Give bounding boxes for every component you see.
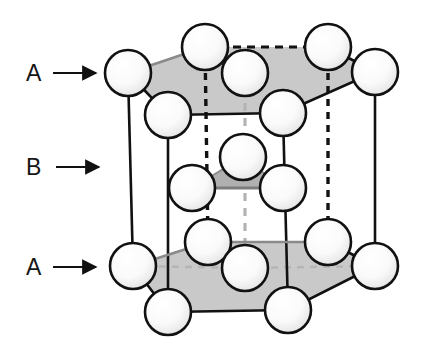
hcp-structure-figure: A B A bbox=[0, 0, 424, 354]
atom-a-top-back-right bbox=[305, 24, 351, 70]
layer-a-top-atoms-back bbox=[105, 24, 398, 138]
atom-a-bottom-front-right bbox=[265, 287, 311, 333]
atom-a-bottom-front-left bbox=[145, 289, 191, 335]
atom-a-top-left bbox=[105, 50, 151, 96]
atom-b-front-left bbox=[169, 165, 215, 211]
atom-b-front-right bbox=[260, 165, 306, 211]
layer-label-a-bottom: A bbox=[26, 256, 41, 279]
atom-a-bottom-center bbox=[222, 245, 268, 291]
layer-label-a-top: A bbox=[26, 62, 41, 85]
atom-a-top-back-left bbox=[182, 24, 228, 70]
layer-b-atoms bbox=[169, 134, 306, 211]
layer-a-bottom-atoms bbox=[110, 219, 398, 335]
label-arrows bbox=[53, 73, 99, 267]
atom-b-back-center bbox=[220, 134, 266, 180]
vertical-edge-left bbox=[128, 73, 133, 266]
layer-label-b-middle: B bbox=[26, 156, 41, 179]
atom-a-bottom-left bbox=[110, 243, 156, 289]
crystal-structure-diagram bbox=[0, 0, 424, 354]
atom-a-top-front-left bbox=[145, 92, 191, 138]
atom-a-bottom-back-right bbox=[305, 219, 351, 265]
atom-a-top-right bbox=[352, 49, 398, 95]
atom-a-top-front-right bbox=[260, 90, 306, 136]
atom-a-bottom-right bbox=[352, 243, 398, 289]
atom-a-top-center bbox=[222, 50, 268, 96]
